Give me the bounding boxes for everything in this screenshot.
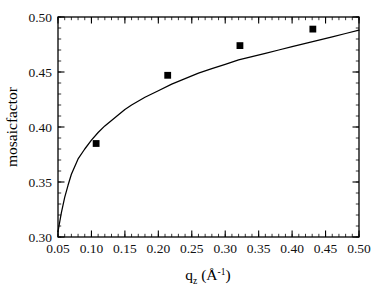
figure-panel: 0.050.100.150.200.250.300.350.400.450.50… [0,0,378,296]
data-point-marker [237,42,244,49]
x-tick-label: 0.20 [147,241,171,256]
x-tick-label: 0.25 [180,241,204,256]
y-tick-label: 0.50 [28,10,52,25]
x-tick-label: 0.30 [213,241,237,256]
data-point-marker [164,72,171,79]
x-tick-label: 0.50 [347,241,371,256]
x-tick-label: 0.15 [113,241,137,256]
mosaicfactor-vs-qz-chart: 0.050.100.150.200.250.300.350.400.450.50… [0,0,378,296]
x-tick-label: 0.35 [247,241,271,256]
x-tick-label: 0.10 [80,241,104,256]
data-point-marker [93,140,100,147]
y-tick-label: 0.40 [28,120,52,135]
x-tick-label: 0.45 [314,241,338,256]
data-point-marker [309,26,316,33]
y-tick-label: 0.30 [28,230,52,245]
x-tick-label: 0.40 [280,241,304,256]
y-axis-title: mosaicfactor [3,86,20,167]
y-tick-label: 0.45 [28,65,52,80]
y-tick-label: 0.35 [28,175,52,190]
